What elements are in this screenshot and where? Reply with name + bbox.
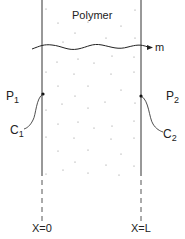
flux-wavy-line [32, 44, 148, 49]
left-pressure-label: P1 [6, 89, 19, 105]
right-concentration-label: C2 [163, 127, 177, 143]
left-concentration-label: C1 [10, 123, 24, 139]
polymer-dots [45, 8, 135, 175]
c1-leader-line [24, 94, 43, 129]
c2-leader-line [141, 96, 163, 132]
left-position-label: X=0 [32, 222, 52, 234]
membrane-diagram: Polymer m P1 P2 C1 C2 X=0 X=L [0, 0, 185, 239]
flux-arrowhead-icon [147, 45, 153, 50]
right-position-label: X=L [131, 222, 151, 234]
polymer-title: Polymer [72, 9, 113, 21]
flux-label: m [155, 41, 164, 53]
right-pressure-label: P2 [166, 89, 179, 105]
